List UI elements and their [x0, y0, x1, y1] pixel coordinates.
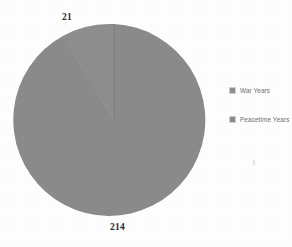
- legend-item-peacetime-years[interactable]: Peacetime Years: [229, 115, 292, 124]
- pie-svg: [0, 0, 222, 247]
- data-label-war-years: 21: [62, 12, 72, 22]
- legend-label-peacetime-years: Peacetime Years: [240, 115, 289, 124]
- legend-label-war-years: War Years: [240, 86, 270, 95]
- data-label-peacetime-years: 214: [110, 222, 125, 232]
- scan-artifact-speck: [253, 160, 255, 165]
- legend-item-war-years[interactable]: War Years: [229, 86, 292, 95]
- pie-chart: 21 214 War Years Peacetime Years: [0, 0, 292, 247]
- pie-plot-area: 21 214: [0, 0, 222, 247]
- legend-swatch-icon-war-years: [229, 87, 236, 94]
- legend-swatch-icon-peacetime-years: [229, 116, 236, 123]
- chart-legend: War Years Peacetime Years: [229, 86, 292, 144]
